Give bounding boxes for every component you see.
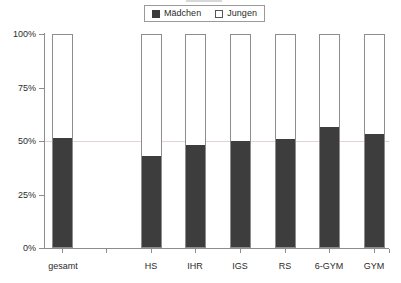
bar-segment-maedchen-RS [276,139,295,247]
stacked-bar-6-GYM [319,34,340,248]
stacked-bar-gesamt [52,34,73,248]
y-tick-label: 50% [0,137,36,146]
chart-plot-area: 0%25%50%75%100% gesamtHSIHRIGSRS6-GYMGYM [0,0,401,283]
stacked-bar-GYM [364,34,385,248]
x-axis-line [44,248,389,249]
stacked-bar-RS [275,34,296,248]
y-tick-mark [39,34,44,35]
x-tick-label-gesamt: gesamt [40,261,86,271]
bar-segment-maedchen-GYM [365,134,384,247]
y-tick-label: 75% [0,84,36,93]
y-tick-label: 100% [0,30,36,39]
x-tick-label-IHR: IHR [172,261,218,271]
x-tick-mark [285,249,286,253]
bar-segment-maedchen-IHR [186,145,205,247]
x-tick-mark [106,249,107,253]
y-tick-mark [39,88,44,89]
stacked-bar-IGS [230,34,251,248]
x-tick-mark [62,249,63,253]
x-tick-mark [240,249,241,253]
bar-segment-maedchen-gesamt [53,138,72,247]
y-tick-label: 0% [0,244,36,253]
x-tick-mark [329,249,330,253]
bar-segment-maedchen-6-GYM [320,127,339,247]
x-tick-mark [374,249,375,253]
x-tick-label-IGS: IGS [217,261,263,271]
x-tick-label-RS: RS [262,261,308,271]
x-tick-mark [151,249,152,253]
x-tick-mark [195,249,196,253]
bar-segment-maedchen-IGS [231,141,250,247]
x-tick-label-GYM: GYM [351,261,397,271]
bar-segment-maedchen-HS [142,156,161,247]
y-tick-mark [39,141,44,142]
y-tick-mark [39,195,44,196]
stacked-bar-IHR [185,34,206,248]
stacked-bar-HS [141,34,162,248]
x-tick-label-6-GYM: 6-GYM [306,261,352,271]
y-tick-label: 25% [0,191,36,200]
y-tick-mark [39,248,44,249]
x-tick-label-HS: HS [128,261,174,271]
x-tick-mark [389,249,390,253]
